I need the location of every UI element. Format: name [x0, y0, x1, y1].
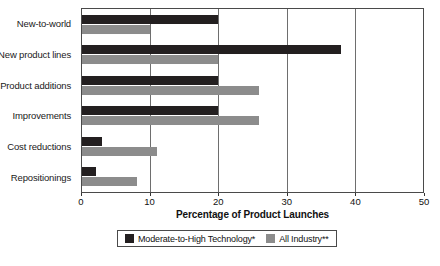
- axis-tick-label: 40: [350, 196, 361, 207]
- legend-item-moderate-to-high-technology[interactable]: Moderate-to-High Technology*: [125, 234, 255, 244]
- chart-legend: Moderate-to-High Technology* All Industr…: [117, 230, 337, 247]
- bar[interactable]: [82, 177, 137, 186]
- category-label: New product lines: [0, 39, 76, 70]
- category-label: Product additions: [0, 70, 76, 101]
- legend-swatch-icon: [125, 234, 134, 243]
- bar-group: [82, 101, 423, 132]
- bar-group: [82, 131, 423, 162]
- bar[interactable]: [82, 116, 259, 125]
- axis-tick-label: 20: [213, 196, 224, 207]
- legend-label: Moderate-to-High Technology*: [138, 234, 255, 244]
- axis-tick-label: 10: [144, 196, 155, 207]
- bar-group: [82, 162, 423, 193]
- value-axis: 01020304050: [81, 193, 424, 209]
- bar-groups: [82, 9, 423, 192]
- bar[interactable]: [82, 15, 218, 24]
- category-label: Improvements: [0, 100, 76, 131]
- bar[interactable]: [82, 86, 259, 95]
- category-label: Repositionings: [0, 162, 76, 193]
- bar-chart: New-to-world New product lines Product a…: [0, 0, 440, 266]
- bar-group: [82, 70, 423, 101]
- legend-label: All Industry**: [279, 234, 328, 244]
- bar[interactable]: [82, 76, 218, 85]
- category-label: New-to-world: [0, 8, 76, 39]
- bar-group: [82, 40, 423, 71]
- bar-group: [82, 9, 423, 40]
- category-axis: New-to-world New product lines Product a…: [0, 8, 76, 193]
- legend-swatch-icon: [266, 234, 275, 243]
- category-label: Cost reductions: [0, 131, 76, 162]
- bar[interactable]: [82, 147, 157, 156]
- axis-tick-label: 0: [78, 196, 83, 207]
- bar[interactable]: [82, 167, 96, 176]
- bar[interactable]: [82, 137, 102, 146]
- plot-area: [81, 8, 424, 193]
- axis-tick-label: 30: [282, 196, 293, 207]
- bar[interactable]: [82, 106, 218, 115]
- bar[interactable]: [82, 25, 150, 34]
- axis-tick-label: 50: [419, 196, 430, 207]
- bar[interactable]: [82, 45, 341, 54]
- legend-item-all-industry[interactable]: All Industry**: [266, 234, 328, 244]
- x-axis-title: Percentage of Product Launches: [81, 209, 424, 220]
- bar[interactable]: [82, 55, 218, 64]
